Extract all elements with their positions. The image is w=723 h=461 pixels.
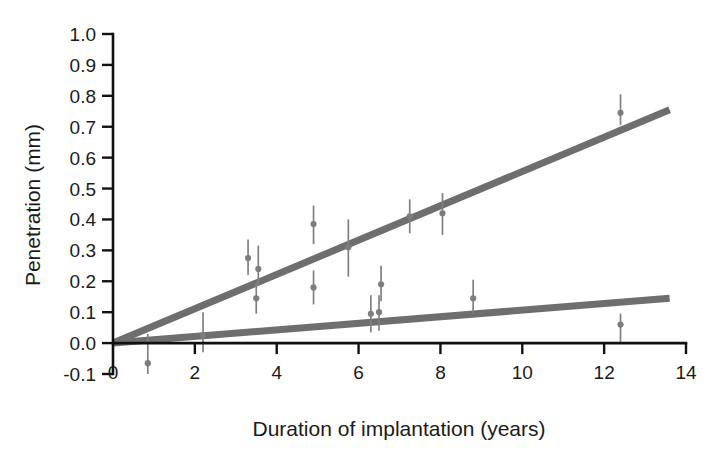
data-point-marker bbox=[200, 332, 206, 338]
data-point-marker bbox=[470, 295, 476, 301]
y-tick-label: -0.1 bbox=[63, 364, 96, 385]
y-tick-label: 0.8 bbox=[70, 86, 96, 107]
y-tick-label: 0.5 bbox=[70, 179, 96, 200]
y-tick-label: 0.2 bbox=[70, 271, 96, 292]
x-tick-label: 12 bbox=[594, 362, 615, 383]
y-axis-title: Penetration (mm) bbox=[21, 124, 44, 286]
data-point-marker bbox=[368, 311, 374, 317]
data-point-marker bbox=[255, 266, 261, 272]
data-point-marker bbox=[310, 221, 316, 227]
data-point-marker bbox=[378, 281, 384, 287]
x-tick-label: 2 bbox=[190, 362, 201, 383]
x-axis-title: Duration of implantation (years) bbox=[253, 417, 546, 440]
x-tick-label: 6 bbox=[353, 362, 364, 383]
x-tick-label: 10 bbox=[512, 362, 533, 383]
data-point-marker bbox=[376, 309, 382, 315]
data-point-marker bbox=[617, 110, 623, 116]
x-tick-label: 0 bbox=[108, 362, 119, 383]
data-point-marker bbox=[407, 213, 413, 219]
data-point-marker bbox=[439, 210, 445, 216]
y-tick-label: 0.7 bbox=[70, 117, 96, 138]
data-point-marker bbox=[345, 244, 351, 250]
data-point-marker bbox=[145, 360, 151, 366]
regression-lines-group bbox=[113, 110, 670, 343]
data-point-marker bbox=[245, 255, 251, 261]
x-tick-label: 14 bbox=[675, 362, 697, 383]
x-tick-label: 8 bbox=[435, 362, 446, 383]
data-point-marker bbox=[617, 321, 623, 327]
scatter-plot: 02468101214 -0.10.00.10.20.30.40.50.60.7… bbox=[0, 0, 723, 461]
x-tick-label: 4 bbox=[271, 362, 282, 383]
data-markers-group bbox=[145, 110, 624, 367]
data-point-marker bbox=[310, 284, 316, 290]
y-tick-label: 1.0 bbox=[70, 24, 96, 45]
y-tick-label: 0.3 bbox=[70, 240, 96, 261]
y-tick-label: 0.9 bbox=[70, 55, 96, 76]
y-tick-label: 0.0 bbox=[70, 333, 96, 354]
y-tick-label: 0.1 bbox=[70, 302, 96, 323]
y-tick-label: 0.4 bbox=[70, 209, 97, 230]
y-tick-label: 0.6 bbox=[70, 148, 96, 169]
y-tick-labels-group: -0.10.00.10.20.30.40.50.60.70.80.91.0 bbox=[63, 24, 96, 385]
x-tick-labels-group: 02468101214 bbox=[108, 362, 697, 383]
data-point-marker bbox=[253, 295, 259, 301]
chart-figure: 02468101214 -0.10.00.10.20.30.40.50.60.7… bbox=[0, 0, 723, 461]
